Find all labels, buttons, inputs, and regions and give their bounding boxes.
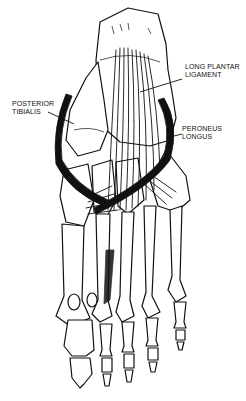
label-long-plantar-ligament: LONG PLANTAR LIGAMENT (185, 63, 240, 79)
label-posterior-tibialis: POSTERIOR TIBIALIS (12, 100, 54, 116)
calcaneus-bone (96, 8, 176, 146)
metatarsal-4 (142, 206, 160, 318)
hallux-distal-phalanx (70, 358, 92, 388)
label-line-2: LIGAMENT (185, 71, 240, 79)
sesamoid-medial (68, 294, 80, 310)
label-line-2: LONGUS (182, 133, 222, 141)
shaded-metatarsal (104, 250, 114, 304)
label-line-2: TIBIALIS (12, 108, 54, 116)
label-line-1: LONG PLANTAR (185, 63, 240, 71)
label-line-1: POSTERIOR (12, 100, 54, 108)
sesamoid-lateral (87, 293, 97, 307)
metatarsal-5 (168, 206, 186, 302)
label-peroneus-longus: PERONEUS LONGUS (182, 125, 222, 141)
label-line-1: PERONEUS (182, 125, 222, 133)
metatarsal-3 (116, 212, 134, 322)
foot-illustration (0, 0, 246, 401)
hallux-proximal-phalanx (64, 320, 94, 356)
foot-anatomy-diagram: LONG PLANTAR LIGAMENT POSTERIOR TIBIALIS… (0, 0, 246, 401)
metatarsal-1 (56, 224, 90, 326)
